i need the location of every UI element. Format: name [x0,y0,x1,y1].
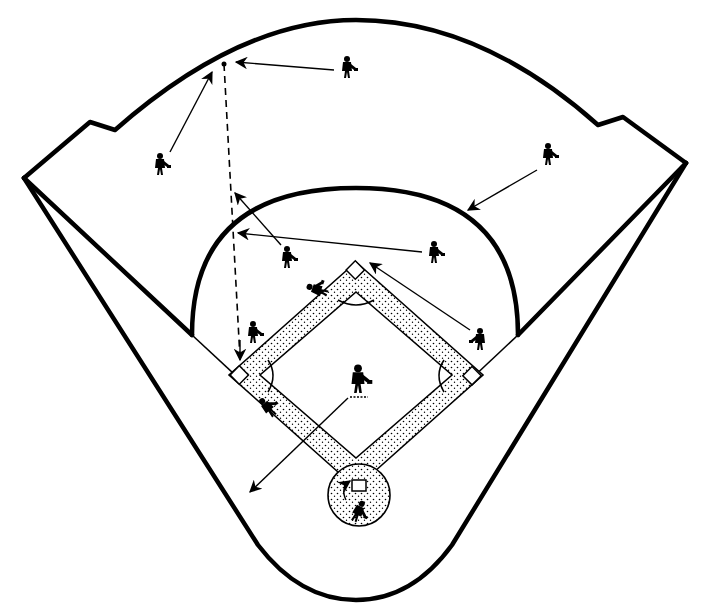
left-fielder-figure [155,153,171,175]
home-plate [352,480,366,491]
second-baseman-arrow [238,233,422,252]
right-fielder-figure [543,143,559,165]
ball-flight-path [224,64,240,358]
ball-landing-point [222,62,227,67]
baseball-field-diagram [0,0,712,615]
second-baseman-figure [429,241,445,263]
outfield-wall [24,20,686,178]
shortstop-figure [282,246,298,268]
first-baseman-figure [469,328,485,350]
third-baseman-figure [248,321,264,343]
center-fielder-figure [342,56,358,78]
right-fielder-arrow [468,170,537,210]
right-foul-line [518,163,686,335]
center-fielder-arrow [236,62,334,70]
home-plate-circle [328,464,390,526]
